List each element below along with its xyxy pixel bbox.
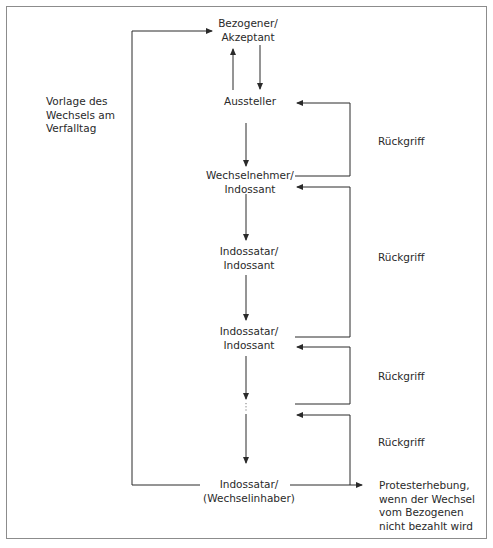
node-text: Indossatar/	[203, 478, 295, 492]
node-text: Aussteller	[224, 95, 276, 109]
label-text: Vorlage des	[46, 95, 115, 109]
recourse-bracket-3	[295, 347, 350, 404]
label-text: vom Bezogenen	[379, 506, 475, 520]
node-text: Indossatar/	[220, 325, 279, 339]
node-text: (Wechselinhaber)	[203, 492, 295, 506]
node-text: Wechselnehmer/	[206, 169, 294, 183]
recourse-bracket-4	[297, 415, 350, 485]
label-text: nicht bezahlt wird	[379, 520, 475, 534]
connector-lines	[0, 0, 493, 548]
node-wechselnehmer-indossant: Wechselnehmer/ Indossant	[206, 169, 294, 196]
node-text: Akzeptant	[218, 31, 278, 45]
node-text: Bezogener/	[218, 17, 278, 31]
recourse-label-2: Rückgriff	[378, 251, 424, 265]
node-indossatar-indossant-2: Indossatar/ Indossant	[220, 325, 279, 352]
node-text: Indossant	[220, 339, 279, 353]
protest-label: Protesterhebung, wenn der Wechsel vom Be…	[379, 479, 475, 533]
label-text: Verfalltag	[46, 122, 115, 136]
label-text: wenn der Wechsel	[379, 493, 475, 507]
presentation-label: Vorlage des Wechsels am Verfalltag	[46, 95, 115, 136]
recourse-label-4: Rückgriff	[378, 436, 424, 450]
node-text: Indossant	[206, 183, 294, 197]
recourse-label-1: Rückgriff	[378, 135, 424, 149]
node-indossatar-indossant-1: Indossatar/ Indossant	[220, 245, 279, 272]
node-aussteller: Aussteller	[224, 95, 276, 109]
label-text: Wechsels am	[46, 109, 115, 123]
recourse-bracket-2	[295, 187, 350, 337]
recourse-label-3: Rückgriff	[378, 370, 424, 384]
presentation-arrow	[132, 31, 212, 485]
recourse-bracket-1	[295, 103, 350, 176]
node-text: Indossant	[220, 259, 279, 273]
label-text: Protesterhebung,	[379, 479, 475, 493]
node-text: Indossatar/	[220, 245, 279, 259]
node-indossatar-wechselinhaber: Indossatar/ (Wechselinhaber)	[203, 478, 295, 505]
node-bezogener-akzeptant: Bezogener/ Akzeptant	[218, 17, 278, 44]
